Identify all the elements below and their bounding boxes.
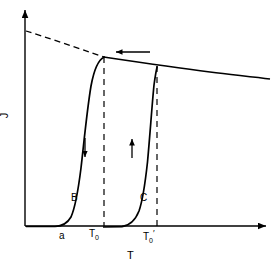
plot-canvas <box>0 0 276 268</box>
t0-subscript: 0 <box>95 234 99 241</box>
curve-label-c: C <box>140 193 147 203</box>
branch-C-curve <box>103 66 157 227</box>
upper-branch-solid <box>103 57 270 79</box>
x-axis-label: T <box>127 250 134 261</box>
x-tick-label-t0-prime: T0′ <box>143 229 155 244</box>
upper-branch-dashed-extrapolation <box>26 31 105 57</box>
x-tick-label-a: a <box>59 231 65 241</box>
t0p-prime-mark: ′ <box>153 228 155 238</box>
x-tick-label-t0: T0 <box>89 229 99 241</box>
curve-label-b: B <box>71 193 78 203</box>
t0p-subscript: 0 <box>149 237 153 244</box>
hysteresis-figure: J T a T0 T0′ B C <box>0 0 276 268</box>
y-axis-label: J <box>0 113 10 119</box>
branch-B-curve <box>26 57 104 226</box>
